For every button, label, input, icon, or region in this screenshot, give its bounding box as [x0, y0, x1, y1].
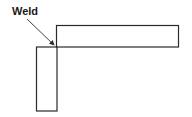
weld-diagram: Weld [0, 0, 192, 117]
weld-label: Weld [12, 5, 38, 17]
vertical-member [37, 47, 58, 111]
diagram-svg [0, 0, 192, 117]
horizontal-member [57, 26, 179, 48]
weld-arrow-icon [27, 19, 54, 45]
